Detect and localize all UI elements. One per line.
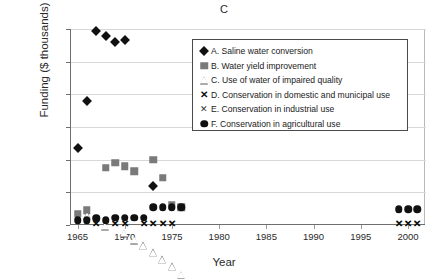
legend-marker-icon: ✕ [198, 103, 210, 115]
x-tick-label: 1965 [58, 231, 98, 242]
legend-marker-icon [198, 118, 210, 130]
legend-marker-icon [198, 60, 210, 72]
data-point-d: ✕ [395, 219, 403, 229]
data-point-b [121, 162, 129, 170]
x-tick-mark [266, 225, 267, 229]
x-tick-mark [78, 225, 79, 229]
data-point-c [121, 230, 129, 237]
x-tick-mark [219, 225, 220, 229]
legend-marker-icon: ✕ [198, 89, 210, 101]
legend-label: D. Conservation in domestic and municipa… [211, 90, 390, 100]
data-point-c [140, 242, 148, 249]
data-point-d: ✕ [168, 219, 176, 229]
y-tick-mark [66, 62, 70, 63]
data-point-f [178, 203, 186, 211]
y-tick-mark [66, 225, 70, 226]
data-point-d: ✕ [111, 219, 119, 229]
data-point-c [130, 237, 138, 244]
data-point-d: ✕ [149, 219, 157, 229]
legend-item[interactable]: C. Use of water of impaired quality [198, 73, 402, 88]
data-point-f [102, 216, 110, 224]
y-tick-mark [66, 192, 70, 193]
legend-marker-icon [198, 74, 210, 86]
data-point-f [130, 214, 138, 222]
legend-item[interactable]: ✕E. Conservation in industrial use [198, 102, 402, 117]
data-point-b [149, 156, 157, 164]
data-point-f [404, 206, 412, 214]
gridline [71, 160, 426, 161]
gridline [71, 29, 426, 30]
gridline [71, 192, 426, 193]
chart-title: C [0, 3, 448, 15]
data-point-f [395, 206, 403, 214]
data-point-f [149, 203, 157, 211]
data-point-d: ✕ [140, 219, 148, 229]
y-axis-title: Funding ($ thousands) [38, 0, 50, 150]
legend-item[interactable]: B. Water yield improvement [198, 59, 402, 74]
data-point-f [168, 203, 176, 211]
data-point-d: ✕ [92, 219, 100, 229]
data-point-f [159, 203, 167, 211]
legend-label: A. Saline water conversion [211, 46, 313, 56]
data-point-d: ✕ [413, 219, 421, 229]
y-tick-mark [66, 127, 70, 128]
legend-item[interactable]: A. Saline water conversion [198, 44, 402, 59]
legend-label: F. Conservation in agricultural use [211, 119, 340, 129]
funding-scatter-chart: C Funding ($ thousands) Year 020,00040,0… [0, 0, 448, 279]
x-tick-label: 1995 [341, 231, 381, 242]
legend-marker-icon [198, 45, 210, 57]
data-point-c [168, 263, 176, 270]
data-point-d: ✕ [121, 219, 129, 229]
data-point-b [130, 167, 138, 175]
data-point-f [414, 206, 422, 214]
legend-label: B. Water yield improvement [211, 61, 316, 71]
legend-item[interactable]: F. Conservation in agricultural use [198, 117, 402, 132]
y-tick-mark [66, 94, 70, 95]
y-tick-mark [66, 29, 70, 30]
legend-label: C. Use of water of impaired quality [211, 75, 342, 85]
x-axis-title: Year [0, 256, 448, 268]
x-tick-label: 1990 [294, 231, 334, 242]
data-point-d: ✕ [159, 219, 167, 229]
legend-label: E. Conservation in industrial use [211, 104, 334, 114]
x-tick-label: 1980 [199, 231, 239, 242]
data-point-b [112, 159, 120, 167]
y-tick-mark [66, 160, 70, 161]
data-point-c [159, 256, 167, 263]
x-tick-label: 1975 [152, 231, 192, 242]
chart-legend: A. Saline water conversionB. Water yield… [192, 39, 408, 131]
data-point-f [74, 216, 82, 224]
data-point-c [149, 249, 157, 256]
data-point-b [159, 174, 167, 182]
x-tick-label: 1985 [246, 231, 286, 242]
data-point-c [177, 272, 185, 279]
data-point-f [83, 216, 91, 224]
data-point-d: ✕ [404, 219, 412, 229]
x-tick-mark [361, 225, 362, 229]
data-point-b [102, 164, 110, 172]
x-tick-label: 2000 [388, 231, 428, 242]
legend-item[interactable]: ✕D. Conservation in domestic and municip… [198, 88, 402, 103]
x-tick-mark [314, 225, 315, 229]
